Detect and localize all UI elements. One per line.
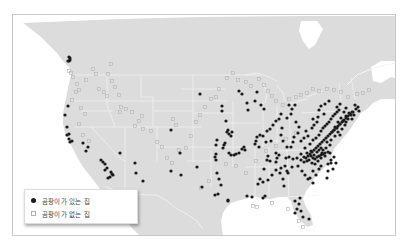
marker-with-mold [331,167,334,170]
marker-with-mold [291,157,294,160]
marker-with-mold [338,102,341,105]
marker-with-mold [350,117,353,120]
marker-with-mold [279,112,282,115]
marker-with-mold [229,134,232,137]
marker-with-mold [314,173,317,176]
marker-with-mold [296,164,299,167]
marker-with-mold [255,90,258,93]
marker-with-mold [293,211,296,214]
marker-with-mold [290,107,293,110]
marker-with-mold [281,177,284,180]
marker-with-mold [268,159,271,162]
marker-with-mold [200,185,203,188]
marker-with-mold [169,169,172,172]
marker-with-mold [312,153,315,156]
marker-with-mold [312,123,315,126]
marker-with-mold [230,130,233,133]
marker-with-mold [300,169,303,172]
marker-with-mold [283,164,286,167]
marker-with-mold [265,129,268,132]
marker-with-mold [333,134,336,137]
marker-with-mold [274,168,277,171]
marker-with-mold [305,151,308,154]
marker-with-mold [269,139,272,142]
marker-with-mold [338,133,341,136]
marker-with-mold [198,92,201,95]
marker-with-mold [299,158,302,161]
marker-with-mold [307,217,310,220]
marker-with-mold [325,176,328,179]
marker-with-mold [334,161,337,164]
marker-with-mold [299,209,302,212]
marker-with-mold [291,140,294,143]
marker-with-mold [213,193,216,196]
marker-with-mold [237,151,240,154]
marker-with-mold [302,160,305,163]
marker-with-mold [253,99,256,102]
marker-with-mold [281,139,284,142]
marker-with-mold [287,155,290,158]
marker-with-mold [195,165,198,168]
marker-with-mold [289,145,292,148]
marker-with-mold [169,128,172,131]
marker-with-mold [270,173,273,176]
marker-with-mold [282,184,285,187]
filled-dot-icon [31,198,36,203]
marker-with-mold [216,192,219,195]
marker-with-mold [277,117,280,120]
marker-with-mold [350,110,353,113]
marker-with-mold [229,153,232,156]
marker-with-mold [274,119,277,122]
marker-with-mold [332,155,335,158]
marker-with-mold [310,161,313,164]
hollow-square-icon [31,211,36,216]
marker-with-mold [322,112,325,115]
marker-with-mold [280,126,283,129]
marker-with-mold [178,151,181,154]
marker-with-mold [335,105,338,108]
marker-with-mold [141,179,144,182]
marker-with-mold [215,171,218,174]
marker-with-mold [214,143,217,146]
marker-with-mold [278,171,281,174]
marker-with-mold [234,152,237,155]
marker-with-mold [328,151,331,154]
marker-with-mold [313,162,316,165]
marker-with-mold [293,103,296,106]
marker-with-mold [65,133,68,136]
marker-with-mold [84,149,87,152]
marker-with-mold [261,180,264,183]
marker-with-mold [321,148,324,151]
marker-with-mold [214,152,217,155]
marker-with-mold [352,113,355,116]
marker-with-mold [298,196,301,199]
marker-with-mold [240,92,243,95]
marker-with-mold [68,58,71,61]
marker-with-mold [242,145,245,148]
marker-with-mold [328,143,331,146]
legend-item-with-mold[interactable]: 곰팡이가 있는 집 [31,194,137,207]
marker-with-mold [292,135,295,138]
legend-item-without-mold[interactable]: 곰팡이가 없는 집 [31,207,137,220]
marker-with-mold [220,109,223,112]
marker-with-mold [301,215,304,218]
marker-with-mold [311,138,314,141]
marker-with-mold [293,199,296,202]
marker-with-mold [305,159,308,162]
marker-with-mold [357,109,360,112]
marker-with-mold [259,103,262,106]
marker-with-mold [245,194,248,197]
marker-with-mold [224,119,227,122]
legend-label: 곰팡이가 있는 집 [42,196,90,206]
marker-with-mold [316,159,319,162]
marker-with-mold [103,168,106,171]
marker-with-mold [66,104,69,107]
marker-with-mold [327,99,330,102]
marker-with-mold [221,146,224,149]
marker-with-mold [223,141,226,144]
marker-with-mold [336,130,339,133]
marker-with-mold [219,183,222,186]
marker-with-mold [340,127,343,130]
marker-with-mold [274,160,277,163]
marker-with-mold [296,131,299,134]
